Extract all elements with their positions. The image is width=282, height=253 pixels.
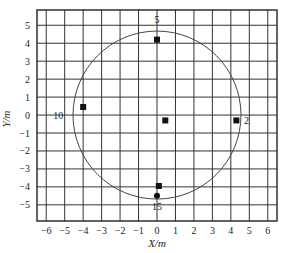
x-tick-label: 1 <box>173 225 178 236</box>
x-tick-label: 3 <box>210 225 215 236</box>
x-axis-label: X/m <box>147 237 166 249</box>
y-tick-label: −4 <box>19 181 30 192</box>
y-tick-labels: −5−4−3−2−1012345 <box>19 20 30 211</box>
x-tick-label: 4 <box>228 225 233 236</box>
y-tick-label: −2 <box>19 145 30 156</box>
y-tick-label: 0 <box>25 110 30 121</box>
chart-canvas: 521015 −6−5−4−3−2−10123456 −5−4−3−2−1012… <box>0 0 282 253</box>
y-tick-label: −1 <box>19 128 30 139</box>
x-tick-label: −5 <box>59 225 70 236</box>
point-label: 10 <box>53 110 63 121</box>
y-tick-label: 5 <box>25 20 30 31</box>
y-axis-label: Y/m <box>0 110 12 127</box>
point-label: 2 <box>244 115 249 126</box>
y-tick-label: 4 <box>25 38 30 49</box>
x-tick-label: −1 <box>133 225 144 236</box>
y-tick-label: 1 <box>25 92 30 103</box>
square-marker <box>154 37 160 43</box>
dot-marker <box>154 193 160 199</box>
x-tick-label: 6 <box>265 225 270 236</box>
x-tick-label: −2 <box>115 225 126 236</box>
square-marker <box>80 104 86 110</box>
x-tick-labels: −6−5−4−3−2−10123456 <box>41 225 270 236</box>
point-annotations: 521015 <box>53 14 249 212</box>
y-tick-label: −3 <box>19 163 30 174</box>
x-tick-label: −4 <box>78 225 89 236</box>
x-tick-label: 0 <box>155 225 160 236</box>
x-tick-label: 2 <box>191 225 196 236</box>
square-marker <box>156 183 162 189</box>
x-tick-label: −3 <box>96 225 107 236</box>
y-tick-label: −5 <box>19 199 30 210</box>
x-tick-label: −6 <box>41 225 52 236</box>
y-tick-label: 3 <box>25 56 30 67</box>
point-label: 5 <box>155 14 160 25</box>
x-tick-label: 5 <box>247 225 252 236</box>
y-tick-label: 2 <box>25 74 30 85</box>
square-marker <box>162 117 168 123</box>
square-marker <box>233 117 239 123</box>
point-label: 15 <box>152 201 162 212</box>
